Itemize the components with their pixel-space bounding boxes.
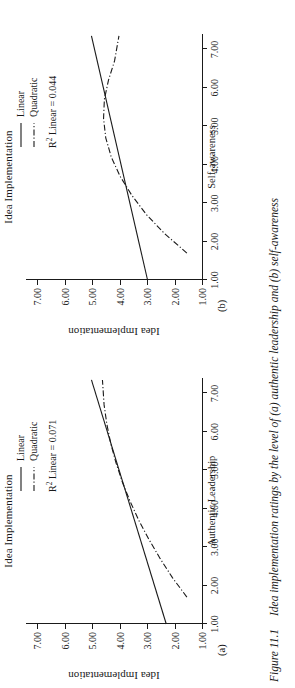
panel-a-x-axis-label: Authentic Leadership	[206, 378, 217, 624]
series-line-quadratic-a	[102, 380, 186, 597]
y-tick-a-6	[37, 624, 38, 629]
y-tick-label-b-3: 4.00	[114, 288, 125, 306]
dash-dot-line-icon	[29, 466, 39, 492]
panel-b-x-axis-line	[202, 34, 203, 280]
panel-b-letter: (b)	[216, 300, 227, 312]
y-tick-a-5	[65, 624, 66, 629]
r2-text-b: Linear = 0.044	[47, 76, 58, 138]
y-tick-label-a-5: 6.00	[59, 632, 70, 650]
legend-row-quadratic: Quadratic	[27, 30, 40, 148]
panel-a-r2-label: R2 Linear = 0.071	[43, 374, 59, 492]
r2-text-a: Linear = 0.071	[47, 420, 58, 482]
y-tick-b-0	[202, 280, 203, 285]
legend-label-linear: Linear	[14, 91, 27, 117]
r2-prefix-b: R	[47, 141, 58, 148]
solid-line-icon	[16, 466, 26, 492]
y-tick-b-5	[65, 280, 66, 285]
y-tick-label-b-2: 3.00	[142, 288, 153, 306]
y-tick-b-6	[37, 280, 38, 285]
r2-prefix-a: R	[47, 485, 58, 492]
y-tick-label-a-4: 5.00	[87, 632, 98, 650]
panel-a-title: Idea Implementation	[2, 356, 14, 686]
figure-caption: Figure 11.1Idea implementation ratings b…	[268, 6, 280, 682]
y-tick-label-b-6: 7.00	[32, 288, 43, 306]
panel-a-y-axis-label: Idea Implementation	[26, 668, 202, 682]
legend-row-linear: Linear	[14, 30, 27, 148]
y-tick-label-a-2: 3.00	[142, 632, 153, 650]
y-tick-label-b-1: 2.00	[169, 288, 180, 306]
legend-label-quadratic: Quadratic	[27, 422, 40, 461]
panel-b-x-axis-label: Self-awareness	[206, 34, 217, 280]
y-tick-a-3	[120, 624, 121, 629]
y-tick-a-1	[175, 624, 176, 629]
y-tick-a-4	[92, 624, 93, 629]
panel-a-x-axis-line	[202, 378, 203, 624]
y-tick-a-2	[147, 624, 148, 629]
y-tick-label-b-5: 6.00	[59, 288, 70, 306]
y-tick-b-2	[147, 280, 148, 285]
panel-b-y-axis-label: Idea Implementation	[26, 324, 202, 338]
series-line-linear-b	[91, 36, 147, 280]
y-tick-label-a-6: 7.00	[32, 632, 43, 650]
legend-label-linear: Linear	[14, 435, 27, 461]
r2-exponent-b: 2	[45, 138, 54, 142]
r2-exponent-a: 2	[45, 482, 54, 486]
y-tick-label-b-4: 5.00	[87, 288, 98, 306]
y-tick-label-a-0: 1.00	[197, 632, 208, 650]
y-tick-b-4	[92, 280, 93, 285]
y-tick-label-b-0: 1.00	[197, 288, 208, 306]
y-tick-label-a-1: 2.00	[169, 632, 180, 650]
dash-dot-line-icon	[29, 122, 39, 148]
panel-b-legend: Linear Quadratic R2 Linear = 0.044	[14, 30, 59, 148]
legend-row-quadratic: Quadratic	[27, 374, 40, 492]
y-tick-a-0	[202, 624, 203, 629]
y-tick-b-1	[175, 280, 176, 285]
figure-caption-text: Idea implementation ratings by the level…	[268, 198, 280, 616]
panel-b-title: Idea Implementation	[2, 12, 14, 342]
y-tick-b-3	[120, 280, 121, 285]
legend-label-quadratic: Quadratic	[27, 78, 40, 117]
solid-line-icon	[16, 122, 26, 148]
figure-page: Idea Implementation Idea Implementation …	[0, 0, 295, 688]
series-line-linear-a	[91, 380, 166, 624]
figure-number: Figure 11.1	[268, 629, 280, 682]
panel-a-letter: (a)	[216, 644, 227, 656]
panel-a-legend: Linear Quadratic R2 Linear = 0.071	[14, 374, 59, 492]
figure-stage: Idea Implementation Idea Implementation …	[0, 0, 295, 688]
y-tick-label-a-3: 4.00	[114, 632, 125, 650]
panel-b-r2-label: R2 Linear = 0.044	[43, 30, 59, 148]
legend-row-linear: Linear	[14, 374, 27, 492]
